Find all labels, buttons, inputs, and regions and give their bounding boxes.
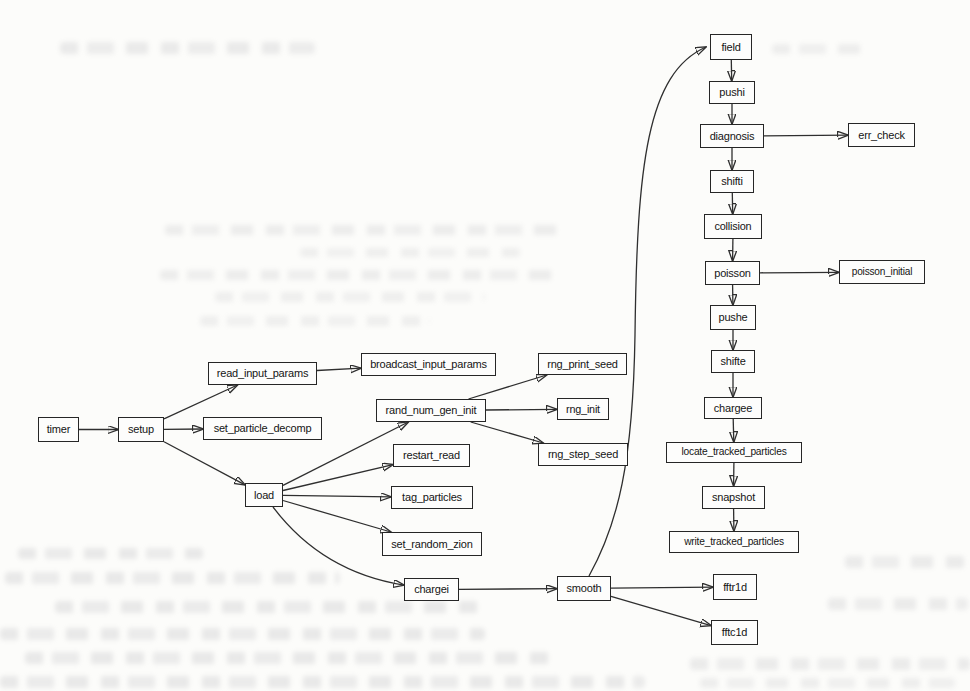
scan-artifact — [690, 658, 970, 670]
node-fftc1d: fftc1d — [711, 620, 758, 645]
edge-chargee-to-locate_tracked_particles — [733, 419, 734, 442]
scan-artifact — [25, 652, 555, 664]
node-set_random_zion: set_random_zion — [382, 532, 482, 556]
edge-layer — [0, 0, 970, 691]
edge-rand_num_gen_init-to-rng_print_seed — [469, 375, 547, 399]
node-err_check: err_check — [848, 123, 915, 147]
node-set_particle_decomp: set_particle_decomp — [203, 417, 322, 440]
edge-read_input_params-to-broadcast_input_params — [317, 368, 361, 370]
node-timer: timer — [38, 417, 79, 442]
scan-artifact — [215, 292, 485, 302]
node-pushe: pushe — [710, 305, 756, 330]
node-rand_num_gen_init: rand_num_gen_init — [376, 399, 486, 422]
node-chargei: chargei — [404, 578, 459, 601]
edge-load-to-restart_read — [283, 465, 393, 491]
scan-artifact — [5, 572, 340, 584]
node-restart_read: restart_read — [393, 444, 470, 467]
node-locate_tracked_particles: locate_tracked_particles — [666, 442, 802, 463]
node-rng_step_seed: rng_step_seed — [538, 443, 628, 466]
edge-smooth-to-field — [589, 47, 706, 576]
node-rng_init: rng_init — [557, 398, 609, 420]
edge-rand_num_gen_init-to-rng_step_seed — [471, 422, 544, 443]
node-fftr1d: fftr1d — [713, 574, 757, 600]
node-setup: setup — [118, 417, 164, 442]
scan-artifact — [845, 556, 965, 568]
edge-smooth-to-fftc1d — [611, 596, 711, 625]
node-tag_particles: tag_particles — [391, 486, 473, 509]
scan-artifact — [772, 44, 867, 54]
scan-artifact — [828, 598, 968, 610]
edge-smooth-to-fftr1d — [611, 587, 713, 588]
node-shifte: shifte — [711, 350, 755, 373]
node-rng_print_seed: rng_print_seed — [538, 353, 627, 375]
edge-poisson-to-poisson_initial — [760, 272, 839, 273]
node-poisson: poisson — [705, 261, 760, 285]
edge-load-to-set_random_zion — [283, 501, 391, 533]
node-chargee: chargee — [704, 397, 762, 419]
edge-chargei-to-smooth — [459, 589, 557, 590]
edge-diagnosis-to-err_check — [764, 135, 848, 136]
edge-load-to-tag_particles — [283, 495, 391, 497]
scan-artifact — [18, 548, 203, 559]
edge-rand_num_gen_init-to-rng_init — [486, 409, 557, 410]
node-field: field — [710, 34, 752, 60]
node-broadcast_input_params: broadcast_input_params — [361, 353, 496, 376]
node-read_input_params: read_input_params — [208, 362, 317, 385]
edge-setup-to-read_input_params — [164, 385, 238, 419]
scan-artifact — [200, 316, 430, 326]
node-write_tracked_particles: write_tracked_particles — [669, 531, 799, 553]
scan-artifact — [300, 248, 520, 257]
scan-artifact — [0, 628, 485, 640]
edge-setup-to-load — [164, 442, 245, 485]
scan-artifact — [165, 225, 560, 235]
node-poisson_initial: poisson_initial — [839, 260, 925, 284]
node-snapshot: snapshot — [702, 486, 765, 509]
node-collision: collision — [704, 214, 762, 239]
scanned-page: timersetupread_input_paramsset_particle_… — [0, 0, 970, 691]
node-shifti: shifti — [710, 170, 754, 193]
scan-artifact — [160, 270, 560, 280]
scan-artifact — [700, 678, 955, 688]
node-pushi: pushi — [709, 81, 755, 104]
node-diagnosis: diagnosis — [700, 124, 764, 148]
scan-artifact — [55, 601, 485, 613]
scan-artifact — [0, 676, 645, 688]
node-load: load — [245, 483, 283, 507]
node-smooth: smooth — [557, 576, 611, 601]
scan-artifact — [60, 42, 315, 54]
